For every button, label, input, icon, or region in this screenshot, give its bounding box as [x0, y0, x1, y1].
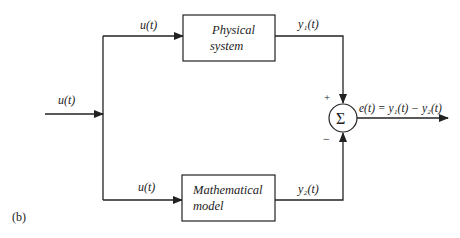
panel-label: (b) [12, 210, 26, 224]
minus-sign: − [323, 132, 330, 146]
physical-system-line2: system [210, 39, 243, 53]
y1-label: y₁(t) [297, 17, 319, 31]
physical-system-block [183, 15, 275, 61]
bottom-branch-label: u(t) [138, 180, 155, 194]
mathematical-model-block [182, 175, 275, 221]
plus-sign: + [324, 91, 330, 103]
model-line2: model [193, 199, 224, 213]
y2-label: y₂(t) [297, 182, 319, 196]
input-signal-label: u(t) [58, 93, 75, 107]
physical-system-line1: Physical [211, 23, 256, 37]
model-line1: Mathematical [192, 183, 263, 197]
top-branch-label: u(t) [140, 18, 157, 32]
block-diagram: u(t) u(t) Physical system y₁(t) u(t) Mat… [0, 0, 460, 238]
y1-path [275, 36, 343, 103]
sigma-symbol: Σ [336, 110, 345, 127]
error-equation-label: e(t) = y₁(t) − y₂(t) [359, 102, 442, 115]
